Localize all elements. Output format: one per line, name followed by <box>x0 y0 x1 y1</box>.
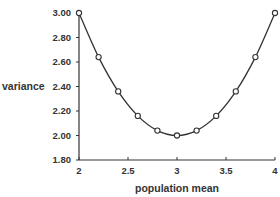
y-tick-label: 1.80 <box>53 154 72 165</box>
data-point-marker <box>214 113 219 118</box>
data-point-marker <box>155 128 160 133</box>
x-tick-label: 2.5 <box>121 165 135 176</box>
x-tick-label: 3.5 <box>219 165 233 176</box>
y-tick-label: 2.80 <box>53 32 72 43</box>
x-tick-label: 2 <box>76 165 81 176</box>
y-tick-label: 3.00 <box>53 7 72 18</box>
y-axis-label: variance <box>2 80 45 92</box>
data-point-marker <box>253 55 258 60</box>
y-tick-label: 2.00 <box>53 130 72 141</box>
y-axis-ticks: 1.802.002.202.402.602.803.00 <box>53 7 80 165</box>
data-point-marker <box>116 89 121 94</box>
data-point-marker <box>96 55 101 60</box>
y-tick-label: 2.40 <box>53 81 72 92</box>
x-axis-label: population mean <box>135 182 219 194</box>
data-point-marker <box>194 128 199 133</box>
y-tick-label: 2.60 <box>53 56 72 67</box>
data-point-marker <box>76 10 81 15</box>
data-points <box>76 10 277 138</box>
x-tick-label: 4 <box>272 165 278 176</box>
y-tick-label: 2.20 <box>53 105 72 116</box>
variance-chart: 1.802.002.202.402.602.803.00 22.533.54 v… <box>0 0 280 197</box>
variance-curve <box>79 13 275 136</box>
x-tick-label: 3 <box>174 165 179 176</box>
data-point-marker <box>174 133 179 138</box>
data-point-marker <box>233 89 238 94</box>
data-point-marker <box>135 113 140 118</box>
data-point-marker <box>272 10 277 15</box>
